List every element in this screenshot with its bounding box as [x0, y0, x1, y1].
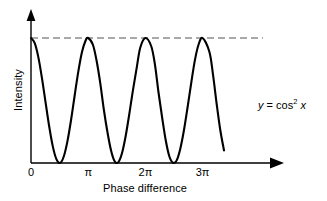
- equation-variable: x: [297, 99, 306, 111]
- x-axis-arrow-icon: [270, 158, 284, 169]
- cos-squared-curve: [31, 38, 224, 163]
- x-tick-label-3pi: 3π: [188, 166, 218, 178]
- y-axis-label: Intensity: [12, 55, 24, 125]
- intensity-phase-difference-chart: Intensity Phase difference 0 π 2π 3π y =…: [0, 0, 327, 201]
- x-tick-label-2pi: 2π: [130, 166, 160, 178]
- x-tick-label-0: 0: [16, 166, 46, 178]
- curve-equation-annotation: y = cos2 x: [258, 99, 306, 111]
- x-tick-label-pi: π: [73, 166, 103, 178]
- y-axis-arrow-icon: [27, 9, 36, 21]
- x-axis-label: Phase difference: [60, 182, 230, 194]
- equation-operator: = cos: [264, 99, 294, 111]
